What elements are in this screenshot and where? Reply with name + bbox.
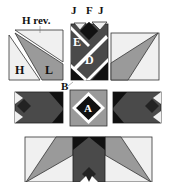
label-h: H xyxy=(15,63,25,77)
label-j-left: J xyxy=(71,4,77,16)
label-d: D xyxy=(85,53,94,67)
leader-b xyxy=(68,82,73,86)
top-right-unit xyxy=(111,33,159,80)
label-j-right: J xyxy=(98,4,104,16)
middle-left-unit xyxy=(15,92,63,123)
label-e: E xyxy=(73,35,81,49)
middle-right-unit xyxy=(113,92,161,123)
top-center-unit xyxy=(71,22,108,81)
label-f: F xyxy=(86,4,93,16)
label-a: A xyxy=(84,102,92,114)
label-b: B xyxy=(61,80,69,92)
bottom-unit xyxy=(25,137,152,182)
label-l: L xyxy=(45,63,53,77)
quilt-block-diagram: H rev. H L J F J E D B A xyxy=(0,0,176,182)
label-h-rev: H rev. xyxy=(22,14,51,26)
